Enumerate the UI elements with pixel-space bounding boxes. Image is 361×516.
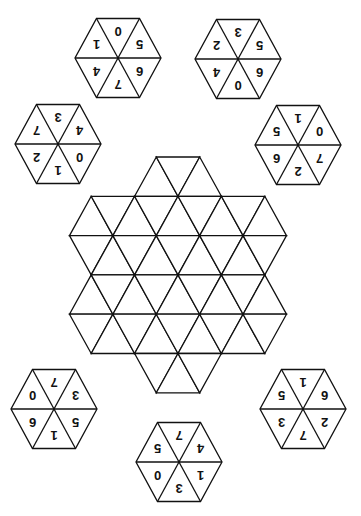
tile-digit-bottom: 1	[54, 163, 61, 178]
tile-digit-bottom: 2	[294, 164, 301, 179]
tile-digit-lower-left: 4	[212, 65, 220, 80]
tile-digit-bottom: 7	[299, 428, 306, 443]
tile-digit-upper-right: 3	[72, 388, 79, 403]
tile-digit-upper-right: 4	[196, 441, 204, 456]
tile-digit-bottom: 7	[114, 77, 121, 92]
tile-digit-bottom: 3	[175, 481, 182, 496]
hex-tile-top-left[interactable]: 056741	[75, 19, 161, 98]
tile-digit-lower-right: 5	[72, 415, 79, 430]
tile-digit-lower-right: 6	[136, 64, 143, 79]
hex-tile-left[interactable]: 340127	[15, 105, 101, 184]
tile-digit-upper-right: 0	[316, 124, 323, 139]
tile-digit-upper-left: 5	[154, 441, 161, 456]
tile-digit-top: 7	[175, 428, 182, 443]
tile-digit-top: 3	[234, 25, 241, 40]
tile-digit-top: 7	[50, 375, 57, 390]
hexagram-board	[70, 157, 287, 393]
tile-digit-lower-right: 0	[76, 150, 83, 165]
tile-digit-upper-right: 5	[136, 37, 143, 52]
tile-digit-upper-right: 5	[256, 38, 263, 53]
tile-digit-bottom: 0	[234, 78, 241, 93]
tile-digit-lower-left: 3	[278, 415, 285, 430]
tile-digit-upper-left: 0	[29, 388, 36, 403]
tile-digit-upper-left: 1	[93, 37, 100, 52]
puzzle-canvas: 056741 356042 340127 107265 735160 16273…	[0, 0, 361, 516]
tile-digit-upper-left: 2	[213, 38, 220, 53]
tile-digit-top: 3	[54, 110, 61, 125]
tile-digit-lower-left: 2	[33, 150, 40, 165]
tile-digit-upper-left: 7	[33, 123, 40, 138]
tile-digit-lower-right: 7	[316, 151, 323, 166]
hex-tile-bottom-right[interactable]: 162735	[260, 370, 346, 449]
tile-digit-lower-right: 1	[197, 468, 204, 483]
tile-digit-upper-right: 4	[75, 123, 83, 138]
tile-digit-top: 1	[299, 375, 306, 390]
tile-digit-lower-left: 4	[92, 64, 100, 79]
tile-digit-upper-left: 5	[278, 388, 285, 403]
tile-digit-upper-right: 6	[321, 388, 328, 403]
tile-digit-upper-left: 5	[273, 124, 280, 139]
hex-tile-bottom[interactable]: 741305	[136, 423, 222, 502]
tile-digit-lower-right: 6	[256, 65, 263, 80]
tile-digit-top: 0	[114, 24, 121, 39]
tile-digit-bottom: 1	[50, 428, 57, 443]
tile-digit-lower-right: 2	[321, 415, 328, 430]
hex-tile-right[interactable]: 107265	[255, 106, 341, 185]
hex-tile-bottom-left[interactable]: 735160	[11, 370, 97, 449]
tile-digit-lower-left: 6	[273, 151, 280, 166]
hex-tile-top-right[interactable]: 356042	[195, 20, 281, 99]
tile-digit-top: 1	[294, 111, 301, 126]
tile-digit-lower-left: 0	[154, 468, 161, 483]
tile-digit-lower-left: 6	[29, 415, 36, 430]
